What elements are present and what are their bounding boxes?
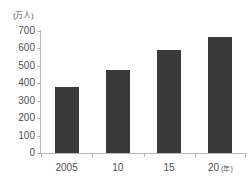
x-tick-label: 2005 (56, 162, 78, 174)
x-axis-unit-label: (年) (219, 165, 233, 172)
y-tick-mark (37, 118, 41, 119)
y-tick-label: 0 (29, 147, 35, 158)
y-tick-mark (37, 136, 41, 137)
y-tick-mark (37, 83, 41, 84)
bar (157, 50, 181, 153)
y-tick-mark (37, 31, 41, 32)
bar (55, 87, 79, 153)
y-axis-unit-label: (万人) (13, 11, 34, 21)
x-tick-label: 20 (年) (208, 162, 233, 175)
bar (208, 37, 232, 153)
x-tick-label: 15 (164, 162, 175, 174)
y-tick-mark (37, 101, 41, 102)
bar-chart: (万人) 7006005004003002001000 2005101520 (… (0, 0, 251, 178)
y-tick-mark (37, 48, 41, 49)
y-tick-label: 400 (18, 77, 35, 88)
y-tick-mark (37, 66, 41, 67)
y-tick-label: 200 (18, 112, 35, 123)
y-tick-label: 500 (18, 60, 35, 71)
y-tick-label: 300 (18, 95, 35, 106)
bar (106, 70, 130, 153)
y-tick-label: 600 (18, 42, 35, 53)
plot-area: 7006005004003002001000 (41, 31, 246, 153)
x-tick-label: 10 (112, 162, 123, 174)
y-tick-label: 100 (18, 130, 35, 141)
y-tick-label: 700 (18, 25, 35, 36)
x-axis-labels: 2005101520 (年) (41, 154, 246, 178)
